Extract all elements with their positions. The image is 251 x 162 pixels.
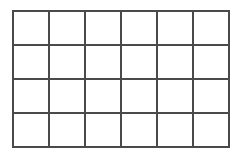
grid-cell [86, 80, 122, 114]
grid-cell [50, 114, 86, 148]
grid-cell [14, 80, 50, 114]
grid-cell [122, 114, 158, 148]
grid-cell [122, 12, 158, 46]
grid-cell [194, 80, 230, 114]
empty-grid [12, 10, 230, 148]
grid-cell [86, 12, 122, 46]
grid-cell [158, 12, 194, 46]
grid-cell [86, 114, 122, 148]
grid-cell [194, 114, 230, 148]
grid-cell [158, 46, 194, 80]
grid-cell [158, 114, 194, 148]
grid-cell [50, 80, 86, 114]
grid-cell [14, 46, 50, 80]
grid-cell [122, 46, 158, 80]
grid-cell [86, 46, 122, 80]
grid-cell [50, 12, 86, 46]
grid-cell [122, 80, 158, 114]
grid-cell [50, 46, 86, 80]
grid-cell [14, 12, 50, 46]
grid-cell [194, 12, 230, 46]
grid-cell [158, 80, 194, 114]
grid-cell [194, 46, 230, 80]
grid-cell [14, 114, 50, 148]
